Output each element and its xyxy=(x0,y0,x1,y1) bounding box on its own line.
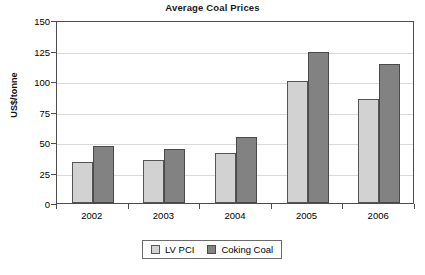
bar-2002-lv-pci xyxy=(72,162,93,203)
bar-2003-lv-pci xyxy=(143,160,164,203)
bar-2005-coking-coal xyxy=(308,52,329,203)
bar-2003-coking-coal xyxy=(164,149,185,203)
bar-2006-lv-pci xyxy=(358,99,379,203)
chart-title: Average Coal Prices xyxy=(0,2,425,13)
x-tick-label-2005: 2005 xyxy=(277,210,337,221)
legend-label: Coking Coal xyxy=(221,244,273,255)
plot-area xyxy=(56,21,414,204)
x-tick-label-2002: 2002 xyxy=(62,210,122,221)
legend-swatch-icon xyxy=(207,245,216,254)
x-tick-mark xyxy=(342,204,343,209)
x-tick-label-2003: 2003 xyxy=(133,210,193,221)
y-axis-title: US$/tonne xyxy=(9,50,19,140)
bar-2006-coking-coal xyxy=(379,64,400,203)
x-tick-mark xyxy=(199,204,200,209)
legend-entry-coking-coal[interactable]: Coking Coal xyxy=(207,244,273,255)
gridline xyxy=(57,53,413,54)
chart-legend: LV PCICoking Coal xyxy=(142,240,282,259)
y-tick-label: 25 xyxy=(10,168,50,179)
y-tick-label: 50 xyxy=(10,138,50,149)
x-tick-label-2006: 2006 xyxy=(348,210,408,221)
y-tick-label: 125 xyxy=(10,46,50,57)
y-tick-mark xyxy=(51,52,56,53)
bar-2002-coking-coal xyxy=(93,146,114,203)
y-tick-label: 150 xyxy=(10,16,50,27)
gridline xyxy=(57,83,413,84)
x-tick-mark xyxy=(271,204,272,209)
legend-entry-lv-pci[interactable]: LV PCI xyxy=(151,244,194,255)
average-coal-prices-chart: Average Coal Prices US$/tonne 0255075100… xyxy=(0,0,425,275)
y-tick-mark xyxy=(51,21,56,22)
bar-2005-lv-pci xyxy=(287,81,308,203)
y-tick-label: 100 xyxy=(10,77,50,88)
legend-swatch-icon xyxy=(151,245,160,254)
y-tick-mark xyxy=(51,143,56,144)
y-tick-label: 0 xyxy=(10,199,50,210)
y-tick-mark xyxy=(51,113,56,114)
x-tick-mark xyxy=(56,204,57,209)
bar-2004-coking-coal xyxy=(236,137,257,203)
y-tick-label: 75 xyxy=(10,107,50,118)
bar-2004-lv-pci xyxy=(215,153,236,203)
x-tick-mark xyxy=(128,204,129,209)
legend-label: LV PCI xyxy=(165,244,194,255)
x-tick-mark xyxy=(414,204,415,209)
x-tick-label-2004: 2004 xyxy=(205,210,265,221)
y-tick-mark xyxy=(51,82,56,83)
y-tick-mark xyxy=(51,174,56,175)
